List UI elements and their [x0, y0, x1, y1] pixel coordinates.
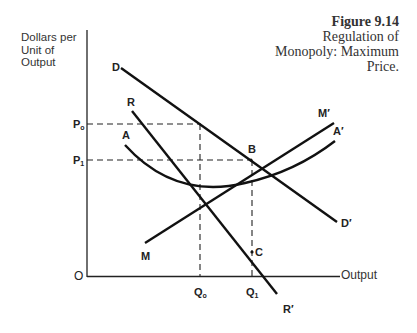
label-r-prime: R′ — [283, 303, 294, 315]
p0-label: Po — [73, 118, 85, 134]
p0-subscript: o — [80, 124, 84, 131]
figure-caption: Figure 9.14 Regulation of Monopoly: Maxi… — [259, 14, 399, 74]
caption-line-2: Monopoly: Maximum — [259, 44, 399, 59]
figure: Dollars per Unit of Output Figure 9.14 R… — [0, 0, 417, 333]
demand-curve-d — [121, 68, 337, 222]
label-d-prime: D′ — [341, 217, 352, 229]
p1-subscript: 1 — [80, 160, 84, 167]
label-r: R — [127, 96, 135, 108]
caption-line-1: Regulation of — [259, 29, 399, 44]
q1-label: Q1 — [246, 286, 258, 302]
marginal-revenue-curve-r — [132, 111, 277, 294]
label-d: D — [112, 61, 120, 73]
label-m-prime: M′ — [318, 107, 330, 119]
origin-label: O — [74, 269, 83, 283]
q0-subscript: o — [203, 292, 207, 299]
label-a: A — [122, 129, 130, 141]
marginal-cost-curve-m — [145, 123, 334, 243]
label-m: M — [141, 250, 150, 262]
y-axis-title: Dollars per Unit of Output — [21, 31, 91, 69]
q1-subscript: 1 — [255, 292, 259, 299]
caption-line-3: Price. — [259, 59, 399, 74]
p1-label: P1 — [73, 154, 84, 170]
x-axis-title: Output — [341, 268, 377, 282]
q0-letter: Q — [194, 286, 203, 298]
q1-letter: Q — [246, 286, 255, 298]
figure-number: Figure 9.14 — [259, 14, 399, 29]
average-cost-curve-a — [125, 141, 335, 187]
label-a-prime: A′ — [333, 125, 344, 137]
label-point-b: B — [248, 143, 256, 155]
point-b-marker — [249, 158, 252, 161]
point-c-marker — [250, 250, 253, 253]
label-point-c: C — [255, 246, 263, 258]
q0-label: Qo — [194, 286, 207, 302]
